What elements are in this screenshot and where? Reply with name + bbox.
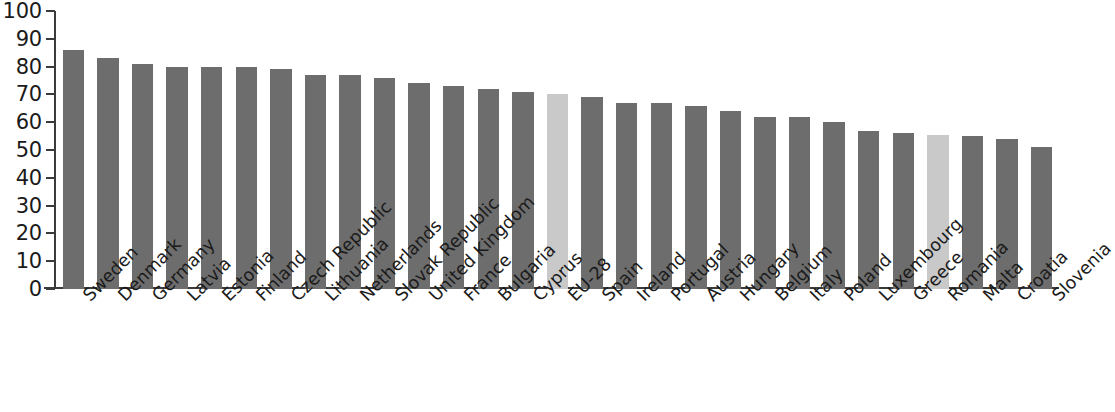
y-axis: 1009080706050403020100	[0, 0, 44, 300]
bar-slot	[63, 11, 84, 289]
bar[interactable]	[63, 50, 84, 289]
y-axis-tick-mark	[46, 93, 55, 95]
bar-slot	[685, 11, 706, 289]
y-axis-tick-mark	[46, 38, 55, 40]
bar-slot	[581, 11, 602, 289]
y-axis-tick-label: 80	[16, 55, 42, 79]
bar[interactable]	[823, 122, 844, 289]
y-axis-tick-label: 50	[16, 138, 42, 162]
bar-slot	[962, 11, 983, 289]
x-axis: SwedenDenmarkGermanyLatviaEstoniaFinland…	[56, 291, 1059, 412]
y-axis-tick-mark	[46, 177, 55, 179]
y-axis-tick-mark	[46, 66, 55, 68]
y-axis-tick-mark	[46, 288, 55, 290]
y-axis-tick-label: 100	[3, 0, 42, 23]
bar-slot	[97, 11, 118, 289]
bar-slot	[236, 11, 257, 289]
y-axis-tick-mark	[46, 121, 55, 123]
y-axis-tick-mark	[46, 232, 55, 234]
bar-slot	[132, 11, 153, 289]
bar-slot	[305, 11, 326, 289]
bar-slot	[270, 11, 291, 289]
y-axis-tick-label: 10	[16, 249, 42, 273]
y-axis-tick-label: 40	[16, 166, 42, 190]
y-axis-tick-mark	[46, 205, 55, 207]
y-axis-tick-mark	[46, 260, 55, 262]
bar-slot	[858, 11, 879, 289]
y-axis-tick-label: 30	[16, 194, 42, 218]
y-axis-tick-label: 70	[16, 82, 42, 106]
y-axis-tick-mark	[46, 149, 55, 151]
bar-slot	[1031, 11, 1052, 289]
bar-slot	[893, 11, 914, 289]
y-axis-tick-mark	[46, 10, 55, 12]
bar-slot	[616, 11, 637, 289]
bar-slot	[754, 11, 775, 289]
bar-slot	[512, 11, 533, 289]
y-axis-tick-label: 60	[16, 110, 42, 134]
y-axis-tick-label: 90	[16, 27, 42, 51]
y-axis-tick-label: 0	[29, 277, 42, 301]
bar-slot	[651, 11, 672, 289]
y-axis-tick-label: 20	[16, 221, 42, 245]
